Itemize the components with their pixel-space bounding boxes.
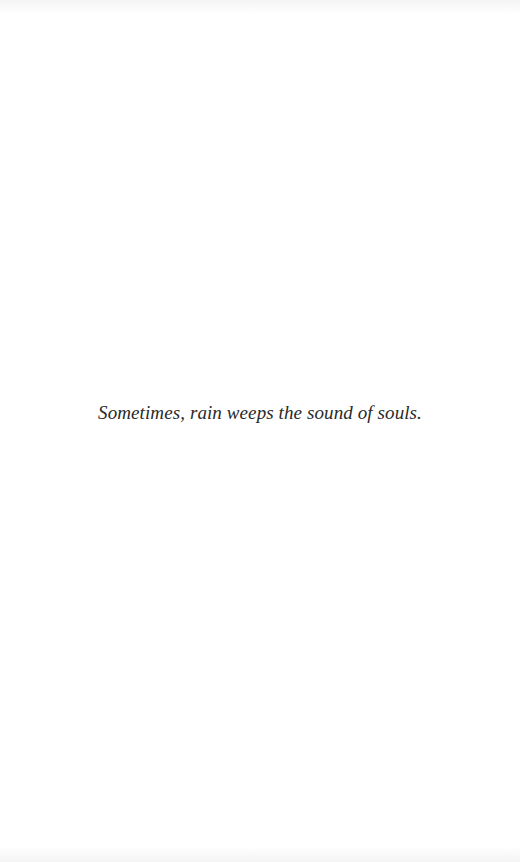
scan-edge-bottom — [0, 846, 520, 862]
scan-edge-top — [0, 0, 520, 14]
epigraph-text: Sometimes, rain weeps the sound of souls… — [0, 399, 520, 427]
book-page: Sometimes, rain weeps the sound of souls… — [0, 0, 520, 862]
